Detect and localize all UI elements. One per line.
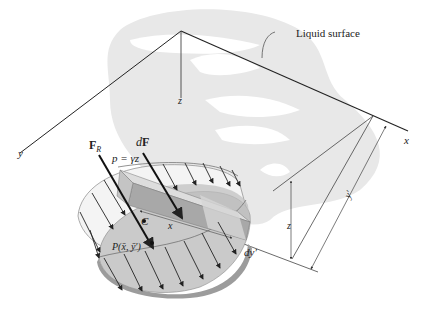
z-axis-label: z — [177, 95, 182, 106]
pressure-equation-label: p = γz — [111, 152, 140, 164]
x-axis-label: x — [403, 134, 409, 146]
depth-z-label: z — [286, 220, 291, 231]
centroid-label: C — [141, 215, 149, 227]
center-of-pressure-point — [150, 241, 154, 245]
resultant-force-label: FR — [89, 138, 101, 154]
differential-force-label: dF — [136, 135, 149, 149]
liquid-surface-label: Liquid surface — [296, 27, 360, 39]
strip-x-label: x — [167, 220, 173, 231]
y-axis-label: y — [17, 147, 23, 159]
center-of-pressure-label: P(x̄, ȳ′) — [111, 241, 142, 253]
strip-width-label: dy′ — [244, 246, 257, 258]
hydrostatic-plate-diagram: Liquid surface x y z FR dF p = γz C P(x̄… — [0, 0, 425, 315]
